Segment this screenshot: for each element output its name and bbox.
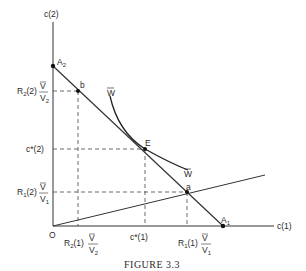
w-bar-top: W bbox=[107, 88, 115, 98]
label-a1: A1 bbox=[221, 215, 231, 226]
point-a2 bbox=[51, 64, 55, 68]
origin-label: O bbox=[49, 230, 56, 240]
origin-ray bbox=[53, 175, 265, 226]
label-b: b bbox=[80, 80, 85, 90]
dashed-guides bbox=[53, 91, 187, 226]
w-bar-bottom: W bbox=[184, 169, 192, 179]
indifference-curve bbox=[110, 96, 188, 170]
x-tick-r2-1: R2(1) V V2 bbox=[64, 233, 99, 256]
figure-caption: FIGURE 3.3 bbox=[124, 259, 180, 270]
y-tick-c-star-2: c*(2) bbox=[26, 144, 44, 154]
svg-text:V: V bbox=[202, 233, 208, 243]
svg-text:V2: V2 bbox=[40, 93, 50, 104]
y-tick-r1-2: R1(2) V V1 bbox=[17, 182, 50, 205]
label-e: E bbox=[145, 138, 151, 148]
label-a2: A2 bbox=[57, 57, 67, 68]
svg-text:V1: V1 bbox=[202, 245, 212, 256]
y-axis-label: c(2) bbox=[44, 9, 59, 19]
svg-text:V1: V1 bbox=[40, 194, 50, 205]
svg-text:R2(1): R2(1) bbox=[64, 238, 84, 249]
label-a: a bbox=[186, 182, 191, 192]
svg-text:V: V bbox=[40, 182, 46, 192]
svg-text:V: V bbox=[40, 81, 46, 91]
svg-text:W: W bbox=[107, 88, 115, 98]
svg-text:R1(1): R1(1) bbox=[178, 238, 198, 249]
svg-text:R1(2): R1(2) bbox=[17, 187, 37, 198]
svg-text:V2: V2 bbox=[89, 245, 99, 256]
figure-canvas: c(2) c(1) O A2 b E a A1 W W R2(2) V V2 c… bbox=[0, 0, 306, 271]
svg-text:V: V bbox=[89, 233, 95, 243]
y-tick-r2-2: R2(2) V V2 bbox=[17, 81, 50, 104]
x-axis-label: c(1) bbox=[277, 221, 292, 231]
svg-text:R2(2): R2(2) bbox=[17, 86, 37, 97]
x-tick-c-star-1: c*(1) bbox=[130, 232, 148, 242]
svg-text:W: W bbox=[184, 169, 192, 179]
x-tick-r1-1: R1(1) V V1 bbox=[178, 233, 212, 256]
